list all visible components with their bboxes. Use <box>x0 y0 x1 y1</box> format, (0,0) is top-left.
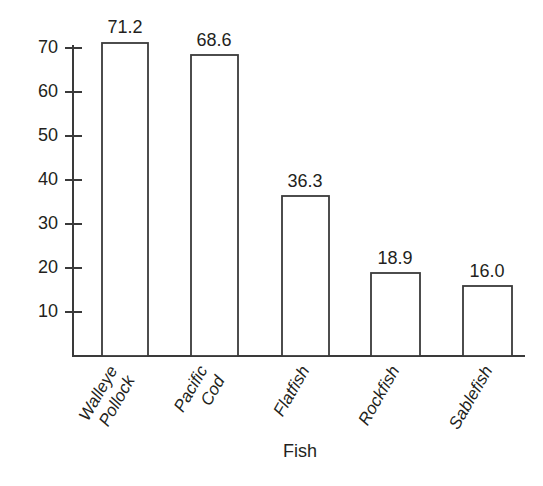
y-tick-label-20: 20 <box>38 257 58 277</box>
y-tick-label-40: 40 <box>38 169 58 189</box>
y-tick-label-50: 50 <box>38 125 58 145</box>
bar-rockfish <box>371 273 420 356</box>
bar-pacific-cod <box>191 55 238 356</box>
bars-group <box>102 43 512 356</box>
bar-value-label-pacific-cod: 68.6 <box>196 30 231 50</box>
x-label-walleye-pollock: Walleye Pollock <box>75 361 140 434</box>
x-label-pacific-cod: Pacific Cod <box>170 362 229 425</box>
bar-value-label-flatfish: 36.3 <box>287 171 322 191</box>
bar-value-label-rockfish: 18.9 <box>377 248 412 268</box>
x-label-sablefish-line1: Sablefish <box>445 363 496 433</box>
x-label-rockfish-line1: Rockfish <box>354 363 403 429</box>
bar-chart-figure: 10 20 30 40 50 60 70 71.2 68.6 36.3 18.9… <box>0 0 543 486</box>
x-axis-title: Fish <box>283 441 317 461</box>
x-label-flatfish: Flatfish <box>270 363 314 420</box>
x-axis-category-labels: Walleye Pollock Pacific Cod Flatfish Roc… <box>75 361 497 434</box>
y-tick-label-60: 60 <box>38 81 58 101</box>
y-tick-label-70: 70 <box>38 37 58 57</box>
x-label-rockfish: Rockfish <box>354 363 403 429</box>
y-tick-label-30: 30 <box>38 213 58 233</box>
y-tick-label-10: 10 <box>38 301 58 321</box>
y-axis-tick-labels: 10 20 30 40 50 60 70 <box>38 37 58 321</box>
bar-walleye-pollock <box>102 43 148 356</box>
bar-flatfish <box>282 196 329 356</box>
bar-sablefish <box>463 286 512 356</box>
bar-value-label-walleye-pollock: 71.2 <box>107 17 142 37</box>
x-label-sablefish: Sablefish <box>445 363 496 433</box>
bar-value-label-sablefish: 16.0 <box>469 261 504 281</box>
chart-canvas: 10 20 30 40 50 60 70 71.2 68.6 36.3 18.9… <box>0 0 543 486</box>
x-label-flatfish-line1: Flatfish <box>270 363 314 420</box>
